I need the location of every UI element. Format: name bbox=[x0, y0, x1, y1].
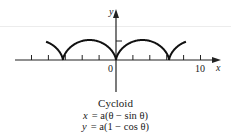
equation-y-lhs: y bbox=[82, 121, 87, 132]
x-axis-label: x bbox=[215, 62, 221, 73]
equation-y-rhs: = a(1 − cos θ) bbox=[91, 121, 149, 132]
x-tick-label-10: 10 bbox=[195, 63, 205, 74]
origin-label: 0 bbox=[108, 63, 113, 74]
y-axis-label: y bbox=[108, 6, 114, 17]
equation-y: y = a(1 − cos θ) bbox=[0, 119, 231, 132]
y-axis-arrow-icon bbox=[113, 9, 119, 18]
